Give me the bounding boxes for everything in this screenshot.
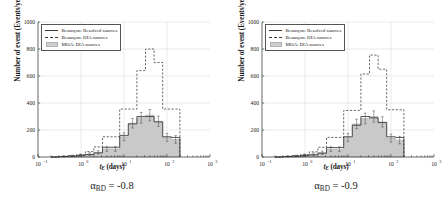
svg-text:600: 600: [251, 73, 260, 79]
legend-label: Besançon: Resolved sources: [62, 28, 118, 33]
legend-key-dashed-icon: [269, 34, 282, 41]
x-axis-label-unit: (days): [329, 163, 349, 171]
panel-caption-left: αBD = -0.8: [0, 180, 224, 193]
legend-key-solid-icon: [269, 27, 282, 34]
svg-text:800: 800: [27, 46, 36, 52]
svg-text:400: 400: [27, 100, 36, 106]
y-axis-label: Number of event (Events/year): [238, 0, 246, 106]
svg-text:200: 200: [27, 127, 36, 133]
legend-key-solid-icon: [45, 27, 58, 34]
x-axis-label: tE (days): [224, 163, 448, 171]
legend-key-patch-icon: [45, 41, 58, 48]
panel-caption-right: αBD = -0.9: [224, 180, 448, 193]
caption-subscript: BD: [96, 185, 106, 193]
svg-text:1000: 1000: [248, 19, 259, 25]
legend-label: Besançon: DIA sources: [286, 35, 332, 40]
caption-subscript: BD: [320, 185, 330, 193]
svg-text:200: 200: [251, 127, 260, 133]
y-axis-label: Number of event (Events/year): [14, 0, 22, 106]
legend-item-0: Besançon: Resolved sources: [269, 27, 341, 34]
panel-right: Number of event (Events/year) 0200400600…: [224, 0, 448, 205]
legend-right: Besançon: Resolved sourcesBesançon: DIA …: [265, 24, 345, 52]
legend-key-dashed-icon: [45, 34, 58, 41]
svg-text:400: 400: [251, 100, 260, 106]
x-axis-label-unit: (days): [105, 163, 125, 171]
legend-item-1: Besançon: DIA sources: [45, 34, 117, 41]
legend-label: Besançon: DIA sources: [62, 35, 108, 40]
caption-value: = -0.8: [106, 180, 134, 191]
legend-left: Besançon: Resolved sourcesBesançon: DIA …: [41, 24, 121, 52]
legend-item-2: MOA: DIA sources: [269, 41, 341, 48]
svg-text:1000: 1000: [24, 19, 35, 25]
legend-key-patch-icon: [269, 41, 282, 48]
legend-item-0: Besançon: Resolved sources: [45, 27, 117, 34]
legend-item-2: MOA: DIA sources: [45, 41, 117, 48]
caption-value: = -0.9: [330, 180, 358, 191]
panel-left: Number of event (Events/year) 0200400600…: [0, 0, 224, 205]
figure-two-panel: Number of event (Events/year) 0200400600…: [0, 0, 448, 205]
x-axis-label: tE (days): [0, 163, 224, 171]
plot-area-left: Number of event (Events/year) 0200400600…: [0, 0, 224, 175]
legend-label: MOA: DIA sources: [286, 42, 324, 47]
svg-text:0: 0: [256, 154, 259, 160]
svg-text:600: 600: [27, 73, 36, 79]
svg-text:0: 0: [32, 154, 35, 160]
svg-text:800: 800: [251, 46, 260, 52]
legend-label: MOA: DIA sources: [62, 42, 100, 47]
plot-area-right: Number of event (Events/year) 0200400600…: [224, 0, 448, 175]
legend-label: Besançon: Resolved sources: [286, 28, 342, 33]
legend-item-1: Besançon: DIA sources: [269, 34, 341, 41]
